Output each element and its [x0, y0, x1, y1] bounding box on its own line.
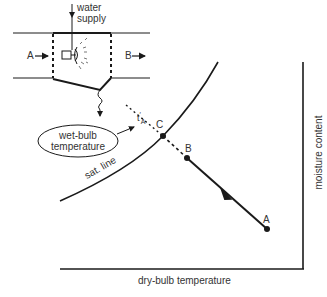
water-supply-label-line2: supply — [77, 13, 106, 24]
nozzle-body — [62, 51, 71, 59]
y-axis-label: moisture content — [313, 103, 324, 203]
wet-bulb-pointer — [117, 127, 134, 134]
water-supply-label: water supply — [77, 2, 106, 24]
point-a — [264, 226, 270, 232]
wet-bulb-text-line1: wet-bulb — [48, 130, 108, 141]
point-c — [160, 133, 166, 139]
wet-bulb-marker-label: t′A — [137, 109, 146, 127]
wet-bulb-text-line2: temperature — [48, 141, 108, 152]
outlet-label: B — [125, 50, 132, 61]
water-supply-label-line1: water — [77, 2, 106, 13]
point-a-label: A — [263, 214, 270, 225]
inlet-label: A — [27, 50, 34, 61]
drain-squiggle — [98, 90, 102, 116]
wet-bulb-bubble-text: wet-bulb temperature — [48, 130, 108, 152]
wet-bulb-subscript: A — [141, 118, 146, 125]
point-b — [184, 155, 190, 161]
sump — [53, 78, 111, 90]
process-line — [187, 158, 267, 229]
x-axis-label: dry-bulb temperature — [138, 275, 231, 286]
point-c-label: C — [156, 119, 163, 130]
spray-droplets — [79, 38, 88, 69]
saturation-extension-line — [163, 136, 187, 158]
point-b-label: B — [185, 143, 192, 154]
